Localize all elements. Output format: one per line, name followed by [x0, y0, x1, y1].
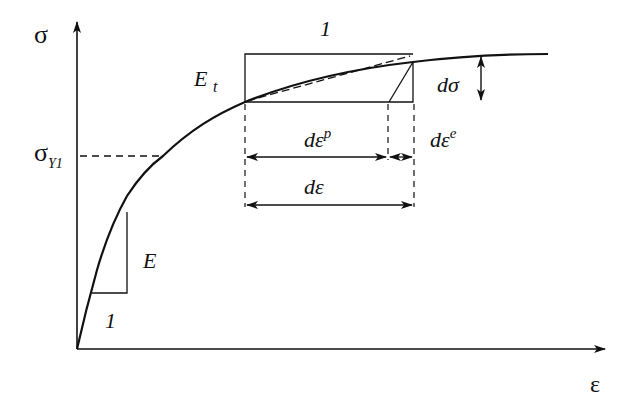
- x-axis-label: ε: [590, 372, 600, 396]
- elastic-slope-run-label: 1: [105, 310, 116, 332]
- total-strain-increment-label: dε: [304, 176, 324, 198]
- stress-strain-curve: [77, 54, 548, 349]
- stress-strain-diagram: [0, 0, 640, 404]
- plastic-strain-superscript: p: [324, 125, 332, 141]
- yield-stress-subscript: Y1: [48, 156, 63, 171]
- elastic-strain-symbol: dε: [430, 127, 450, 152]
- elastic-strain-increment-label: dεe: [430, 126, 456, 151]
- tangent-dashed-line: [247, 56, 410, 101]
- stress-increment-label: dσ: [437, 74, 459, 96]
- elastic-unloading-line: [389, 62, 413, 102]
- elastic-strain-superscript: e: [450, 125, 457, 141]
- y-axis-label: σ: [34, 22, 48, 48]
- elastic-slope-triangle: [92, 212, 127, 293]
- yield-stress-label: σY1: [34, 140, 63, 171]
- tangent-modulus-subscript: t: [213, 78, 217, 95]
- elastic-modulus-label: E: [143, 250, 156, 272]
- tangent-slope-run-label: 1: [320, 18, 331, 40]
- plastic-strain-increment-label: dεp: [304, 126, 331, 151]
- plastic-strain-symbol: dε: [304, 127, 324, 152]
- tangent-modulus-symbol: E: [194, 66, 207, 91]
- tangent-modulus-label: E t: [194, 68, 217, 95]
- yield-stress-symbol: σ: [34, 138, 48, 167]
